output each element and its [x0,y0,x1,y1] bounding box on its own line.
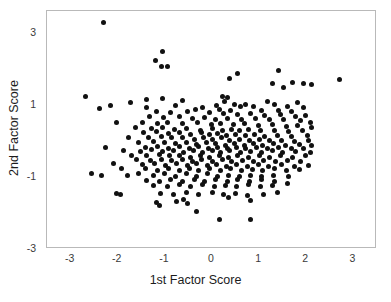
data-point [243,133,248,138]
data-point [228,166,233,171]
data-point [273,159,278,164]
data-point [194,161,199,166]
y-tick-label: -3 [27,242,36,254]
data-point [177,114,182,119]
data-point [301,81,306,86]
data-point [271,141,276,146]
data-point [121,148,126,153]
data-point [228,108,233,113]
data-point [281,85,286,90]
data-point [196,168,201,173]
data-point [196,192,201,197]
data-point [196,144,201,149]
data-point [337,77,342,82]
data-point [126,135,131,140]
data-point [278,153,283,158]
data-point [225,116,230,121]
data-point [151,173,156,178]
data-point [128,100,133,105]
data-point [184,190,189,195]
data-point [185,109,190,114]
data-point [159,64,164,69]
data-point [184,126,189,131]
y-tick-label: -1 [27,170,36,182]
data-point [265,99,270,104]
data-point [235,153,240,158]
data-point [303,113,308,118]
data-point [162,140,167,145]
data-point [140,120,145,125]
data-point [144,97,149,102]
data-point [226,173,231,178]
y-tick-label: 3 [30,26,36,38]
data-point [222,99,227,104]
data-point [240,158,245,163]
data-point [180,98,185,103]
data-point [238,104,243,109]
data-point [248,198,253,203]
data-point [248,149,253,154]
data-point [194,209,199,214]
data-point [97,106,102,111]
data-point [160,96,165,101]
data-point [191,148,196,153]
data-point [118,192,123,197]
data-point [248,111,253,116]
data-point [192,137,197,142]
data-point [227,148,232,153]
data-point [168,177,173,182]
data-point [290,155,295,160]
data-point [212,184,217,189]
data-point [267,155,272,160]
data-point [258,184,263,189]
data-point [259,177,264,182]
data-point [103,145,108,150]
data-point [159,157,164,162]
data-point [246,127,251,132]
data-point [270,183,275,188]
x-tick-label: 3 [350,252,356,264]
data-point [119,166,124,171]
data-point [152,161,157,166]
data-point [188,132,193,137]
data-point [192,177,197,182]
data-point [214,162,219,167]
data-point [177,182,182,187]
data-point [157,179,162,184]
data-point [174,199,179,204]
data-point [177,144,182,149]
data-point [217,217,222,222]
data-point [99,173,104,178]
data-point [172,127,177,132]
data-point [234,184,239,189]
data-point [271,173,276,178]
x-tick-label: 1 [255,252,261,264]
data-point [143,145,148,150]
data-point [181,197,186,202]
data-point [157,203,162,208]
data-point [270,122,275,127]
plot-area [46,10,376,248]
data-point [229,127,234,132]
data-point [169,135,174,140]
data-point [235,177,240,182]
data-point [165,64,170,69]
data-point [101,20,106,25]
data-point [285,104,290,109]
data-point [153,58,158,63]
data-point [234,162,239,167]
data-point [162,171,167,176]
data-point [159,134,164,139]
data-point [235,71,240,76]
data-point [220,157,225,162]
data-point [185,201,190,206]
data-point [272,128,277,133]
data-point [232,102,237,107]
data-point [195,120,200,125]
data-point [237,137,242,142]
data-point [259,108,264,113]
data-point [295,100,300,105]
data-point [155,144,160,149]
data-point [257,137,262,142]
data-point [242,121,247,126]
